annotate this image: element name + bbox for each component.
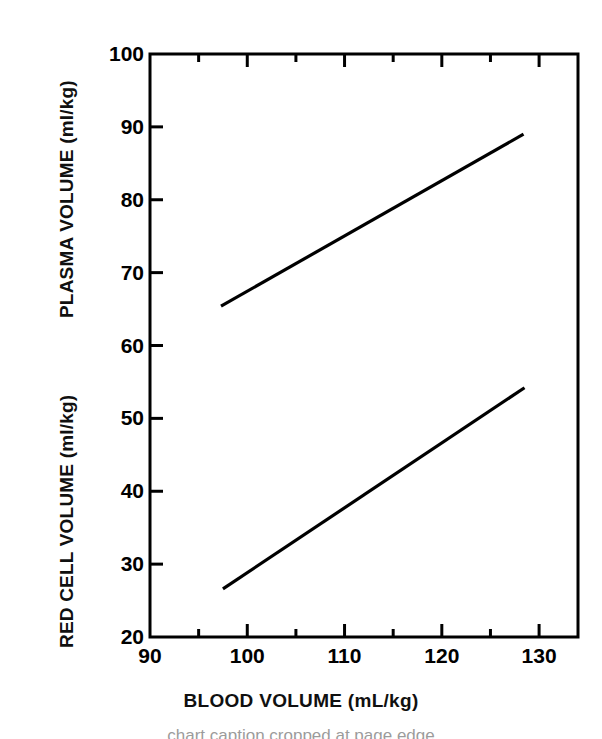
data-series-group xyxy=(221,134,524,589)
plot-area xyxy=(0,0,602,739)
plasma-volume-line xyxy=(221,134,524,306)
cropped-caption-remnant: chart caption cropped at page edge xyxy=(0,726,602,739)
x-axis-top-tick-marks xyxy=(199,54,539,67)
red-cell-volume-line xyxy=(223,388,525,589)
figure-container: PLASMA VOLUME (ml/kg) RED CELL VOLUME (m… xyxy=(0,0,602,739)
y-axis-tick-marks xyxy=(150,127,163,564)
